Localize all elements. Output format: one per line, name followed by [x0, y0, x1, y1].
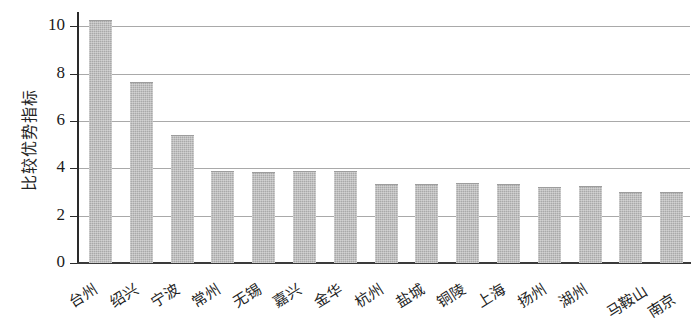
bar — [619, 192, 642, 263]
x-axis-tick-labels: 台州绍兴宁波常州无锡嘉兴金华杭州盐城铜陵上海扬州湖州马鞍山南京 — [78, 264, 690, 310]
bar — [334, 171, 357, 263]
y-axis-tick-label: 6 — [57, 110, 66, 130]
y-axis-title: 比较优势指标 — [16, 35, 40, 245]
y-axis-tick-label: 0 — [57, 252, 66, 272]
x-axis-tick-label: 绍兴 — [107, 281, 141, 311]
y-axis-tick-label: 4 — [57, 157, 66, 177]
y-axis-tick: 10 — [70, 26, 78, 27]
y-axis-tick: 8 — [70, 74, 78, 75]
y-axis-tick-label: 10 — [48, 15, 65, 35]
x-axis-tick-label: 嘉兴 — [271, 281, 305, 311]
bar — [252, 172, 275, 263]
y-axis-tick-label: 2 — [57, 205, 66, 225]
bar — [456, 183, 479, 263]
bar — [375, 184, 398, 263]
bar — [211, 171, 234, 263]
bar — [89, 20, 112, 263]
bar — [130, 82, 153, 263]
x-axis-tick-label: 马鞍山 — [603, 283, 650, 321]
y-axis-tick: 4 — [70, 168, 78, 169]
x-axis-tick-label: 常州 — [189, 281, 223, 311]
bar — [538, 187, 561, 263]
x-axis-tick-label: 无锡 — [230, 281, 264, 311]
bar — [171, 135, 194, 263]
bar — [293, 171, 316, 263]
bar — [497, 184, 520, 263]
bar — [579, 186, 602, 263]
x-axis-tick-label: 湖州 — [556, 281, 590, 311]
bar-series — [78, 12, 690, 263]
x-axis-tick-label: 宁波 — [148, 281, 182, 311]
x-axis-tick-label: 台州 — [67, 281, 101, 311]
x-axis-tick-label: 扬州 — [515, 281, 549, 311]
bar — [660, 192, 683, 263]
y-axis-tick: 2 — [70, 216, 78, 217]
bar — [415, 184, 438, 263]
x-axis-tick-label: 杭州 — [352, 281, 386, 311]
y-axis-tick-label: 8 — [57, 63, 66, 83]
x-axis-tick-label: 上海 — [475, 281, 509, 311]
x-axis-tick-label: 盐城 — [393, 281, 427, 311]
x-axis-tick-label: 金华 — [311, 281, 345, 311]
y-axis-tick: 6 — [70, 121, 78, 122]
x-axis-tick-label: 铜陵 — [434, 281, 468, 311]
